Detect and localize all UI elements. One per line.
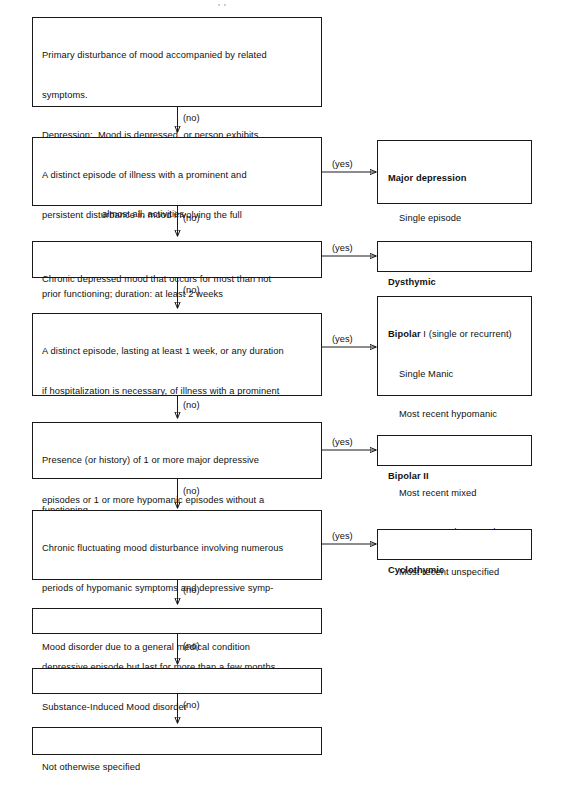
edge-label-no: (no) (183, 285, 200, 296)
decision-line: persistent disturbance in mood involving… (42, 209, 313, 222)
edge-label-no: (no) (183, 641, 200, 652)
edge-label-yes: (yes) (332, 159, 353, 170)
edge-label-no: (no) (183, 700, 200, 711)
decision-box-cyclothymic-criteria: Chronic fluctuating mood disturbance inv… (32, 510, 322, 580)
edge-label-yes: (yes) (332, 334, 353, 345)
scan-artifact (224, 4, 226, 6)
outcome-box-major-depression: Major depression Single episode Recurren… (377, 140, 532, 204)
outcome-box-cyclothymic: Cyclothymic (377, 529, 532, 560)
edge-label-no: (no) (183, 113, 200, 124)
outcome-heading: Cyclothymic (388, 564, 523, 577)
decision-box-primary-disturbance: Primary disturbance of mood accompanied … (32, 17, 322, 107)
outcome-box-bipolar-one: Bipolar I (single or recurrent) Single M… (377, 296, 532, 396)
outcome-item: Single episode (388, 212, 523, 225)
decision-line: Chronic fluctuating mood disturbance inv… (42, 542, 313, 555)
scan-artifact (218, 4, 220, 6)
decision-box-general-medical-condition: Mood disorder due to a general medical c… (32, 608, 322, 634)
edge-label-no: (no) (183, 486, 200, 497)
outcome-item: Most recent hypomanic (388, 408, 523, 421)
edge-label-yes: (yes) (332, 243, 353, 254)
edge-label-no: (no) (183, 585, 200, 596)
decision-line: A distinct episode, lasting at least 1 w… (42, 345, 313, 358)
decision-line: Substance-Induced Mood disorder (42, 701, 313, 714)
decision-line: Presence (or history) of 1 or more major… (42, 454, 313, 467)
decision-box-not-otherwise-specified: Not otherwise specified (32, 727, 322, 755)
flowchart-canvas: Primary disturbance of mood accompanied … (0, 0, 561, 785)
decision-line: A distinct episode of illness with a pro… (42, 169, 313, 182)
outcome-item: Single Manic (388, 368, 523, 381)
decision-line: symptoms. (42, 89, 313, 102)
outcome-heading-suffix: I (single or recurrent) (421, 329, 512, 339)
outcome-box-dysthymic: Dysthymic (377, 241, 532, 272)
edge-label-yes: (yes) (332, 437, 353, 448)
decision-box-substance-induced: Substance-Induced Mood disorder (32, 668, 322, 694)
decision-box-bipolar-one-criteria: A distinct episode, lasting at least 1 w… (32, 313, 322, 396)
decision-box-bipolar-two-criteria: Presence (or history) of 1 or more major… (32, 422, 322, 479)
decision-line: Primary disturbance of mood accompanied … (42, 49, 313, 62)
decision-line: periods of hypomanic symptoms and depres… (42, 582, 313, 595)
edge-label-no: (no) (183, 213, 200, 224)
decision-box-major-depression-criteria: A distinct episode of illness with a pro… (32, 137, 322, 206)
outcome-heading-bold: Bipolar (388, 329, 421, 339)
decision-line: Chronic depressed mood that occurs for m… (42, 273, 313, 286)
decision-line: Mood disorder due to a general medical c… (42, 641, 313, 654)
decision-line: Not otherwise specified (42, 761, 313, 774)
outcome-heading: Bipolar II (388, 470, 523, 483)
outcome-heading: Dysthymic (388, 276, 523, 289)
decision-box-dysthymic-criteria: Chronic depressed mood that occurs for m… (32, 241, 322, 278)
outcome-heading: Bipolar I (single or recurrent) (388, 328, 523, 341)
decision-line: if hospitalization is necessary, of illn… (42, 385, 313, 398)
outcome-box-bipolar-two: Bipolar II (377, 435, 532, 466)
outcome-heading: Major depression (388, 172, 523, 185)
edge-label-yes: (yes) (332, 531, 353, 542)
decision-line: episodes or 1 or more hypomanic episodes… (42, 494, 313, 507)
edge-label-no: (no) (183, 400, 200, 411)
